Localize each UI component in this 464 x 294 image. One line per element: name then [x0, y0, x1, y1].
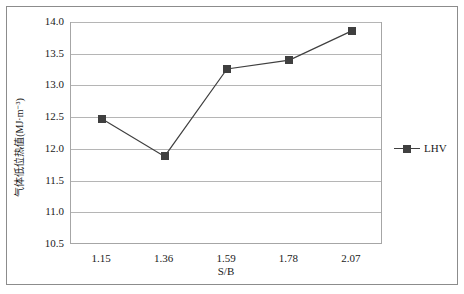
data-point-marker — [98, 115, 106, 123]
y-axis-tick-label: 10.5 — [45, 238, 64, 249]
chart-figure: 14.013.513.012.512.011.511.010.5 气体低位热值(… — [0, 0, 464, 294]
x-axis-tick-label: 1.36 — [154, 253, 173, 264]
legend-label-lhv: LHV — [424, 142, 447, 154]
y-axis-tick-label: 14.0 — [45, 16, 64, 27]
plot-area — [70, 22, 382, 244]
x-axis-tick-label: 1.59 — [216, 253, 235, 264]
y-axis-tick-label: 13.0 — [45, 79, 64, 90]
y-axis-tick-label: 11.0 — [45, 206, 64, 217]
x-axis-tick-label: 1.78 — [279, 253, 298, 264]
y-axis-title: 气体低位热值(MJ·m⁻³) — [11, 68, 26, 228]
legend-square-icon — [403, 145, 411, 153]
x-axis-tick-label: 2.07 — [341, 253, 360, 264]
y-axis-tick-label: 12.5 — [45, 111, 64, 122]
y-axis-tick-labels: 14.013.513.012.512.011.511.010.5 — [20, 0, 64, 294]
data-point-marker — [161, 152, 169, 160]
y-axis-tick-label: 11.5 — [45, 175, 64, 186]
data-point-marker — [223, 65, 231, 73]
y-axis-tick-label: 12.0 — [45, 143, 64, 154]
data-point-marker — [348, 27, 356, 35]
data-point-marker — [285, 56, 293, 64]
series-line-lhv — [71, 22, 383, 244]
y-axis-tick-label: 13.5 — [45, 48, 64, 59]
x-axis-tick-label: 1.15 — [92, 253, 111, 264]
legend-marker-lhv — [394, 143, 420, 154]
legend: LHV — [394, 142, 447, 154]
x-axis-title: S/B — [0, 265, 452, 277]
